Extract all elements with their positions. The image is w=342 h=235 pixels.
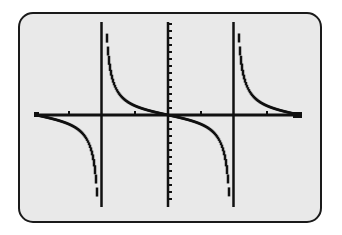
graph-plot xyxy=(0,0,342,235)
